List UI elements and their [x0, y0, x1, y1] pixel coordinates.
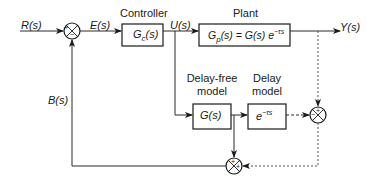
controller-transfer-function: Gc(s)	[133, 28, 158, 43]
delay-title-line2: model	[248, 85, 286, 98]
delay-title-line1: Delay	[248, 72, 286, 85]
sum-error-plus-sign: +	[64, 24, 68, 31]
sum-feedback-plus-sign-right: +	[236, 163, 240, 170]
sum-model-error-plus-sign: +	[316, 107, 320, 114]
tf-tail: (s) = G(s) e	[221, 29, 274, 41]
delay-free-model-transfer-function: G(s)	[200, 109, 221, 121]
sum-model-error-minus-sign: −	[311, 111, 315, 118]
feedback-signal-label: B(s)	[48, 94, 68, 106]
plant-transfer-function: Gp(s) = G(s) e−τs	[208, 28, 284, 44]
delay-model-title: Delay model	[248, 72, 286, 98]
input-signal-label: R(s)	[21, 19, 42, 31]
tf-main: G	[133, 28, 142, 40]
tf-main: G	[208, 29, 216, 41]
sum-error-minus-sign: −	[70, 31, 74, 38]
delay-free-title-line2: model	[186, 85, 238, 98]
delay-model-transfer-function: e−τs	[256, 109, 272, 122]
tf-superscript: −τs	[274, 28, 284, 35]
error-signal-label: E(s)	[90, 19, 110, 31]
tf-tail: (s)	[146, 28, 159, 40]
control-signal-label: U(s)	[170, 19, 191, 31]
sum-feedback-plus-sign-top: +	[231, 158, 235, 165]
delay-free-model-title: Delay-free model	[186, 72, 238, 98]
feedback-signal-line	[72, 40, 226, 166]
plant-title: Plant	[233, 7, 258, 19]
output-signal-label: Y(s)	[340, 21, 360, 33]
controller-title: Controller	[120, 7, 168, 19]
delay-free-title-line1: Delay-free	[186, 72, 238, 85]
tf-superscript: −τs	[262, 109, 272, 116]
